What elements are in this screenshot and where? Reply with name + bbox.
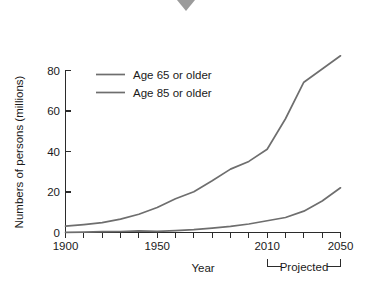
y-tick-label-60: 60: [47, 105, 60, 117]
legend-label-age-65-or-older: Age 65 or older: [133, 69, 212, 81]
series-line-age-85-or-older: [66, 188, 341, 232]
x-tick-label-2050: 2050: [328, 240, 354, 252]
series-line-age-65-or-older: [66, 56, 341, 226]
legend-label-age-85-or-older: Age 85 or older: [133, 87, 212, 99]
series-group: [66, 56, 341, 233]
x-tick-label-1950: 1950: [144, 240, 170, 252]
y-tick-label-0: 0: [54, 227, 60, 239]
line-chart: Numbers of persons (millions) 80 60 40 2…: [0, 0, 369, 285]
y-tick-label-20: 20: [47, 186, 60, 198]
y-tick-label-40: 40: [47, 146, 60, 158]
down-triangle-marker-icon: [177, 0, 195, 11]
x-axis-title: Year: [191, 262, 214, 274]
y-axis-ticks: [66, 71, 72, 193]
projected-label: Projected: [280, 261, 329, 273]
x-tick-label-1900: 1900: [53, 240, 79, 252]
x-axis-ticks: [66, 233, 341, 239]
x-tick-label-2010: 2010: [254, 240, 280, 252]
y-axis-title: Numbers of persons (millions): [13, 75, 25, 228]
chart-legend: Age 65 or older Age 85 or older: [96, 69, 212, 99]
y-tick-label-80: 80: [47, 65, 60, 77]
chart-figure: Numbers of persons (millions) 80 60 40 2…: [0, 0, 369, 285]
